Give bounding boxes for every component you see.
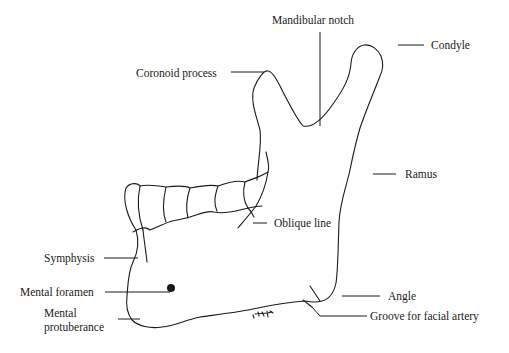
- label-mental-protuberance-line2: protuberance: [44, 321, 104, 334]
- tooth-divider: [215, 186, 218, 211]
- label-groove-for-facial-artery: Groove for facial artery: [370, 310, 479, 323]
- leader-groove-facial-artery-diag: [312, 307, 320, 316]
- label-oblique-line: Oblique line: [274, 217, 331, 230]
- label-condyle: Condyle: [431, 39, 470, 52]
- tooth-divider: [138, 186, 143, 230]
- label-ramus: Ramus: [405, 168, 437, 181]
- oblique-line-ridge: [238, 172, 268, 228]
- gum-line: [133, 206, 262, 232]
- label-mental-protuberance-line1: Mental: [44, 307, 77, 320]
- mandible-diagram: Mandibular notch Condyle Coronoid proces…: [0, 0, 509, 353]
- tooth-divider: [163, 187, 166, 222]
- label-mental-foramen: Mental foramen: [20, 286, 94, 299]
- artist-signature: [253, 311, 273, 318]
- tooth-divider: [244, 182, 248, 208]
- label-mandibular-notch: Mandibular notch: [272, 14, 354, 27]
- mandible-outline: [127, 45, 383, 328]
- label-angle: Angle: [388, 290, 416, 303]
- label-symphysis: Symphysis: [44, 252, 95, 265]
- mental-foramen-dot: [167, 284, 175, 292]
- incisor-root: [143, 230, 147, 262]
- tooth-divider: [187, 188, 190, 218]
- teeth-crown-line: [125, 152, 269, 230]
- label-coronoid-process: Coronoid process: [136, 67, 217, 80]
- facial-artery-groove: [310, 286, 320, 301]
